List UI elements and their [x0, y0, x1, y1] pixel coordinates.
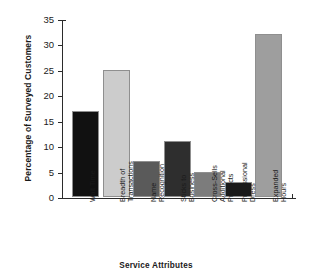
y-axis-tick: 0: [58, 198, 62, 199]
y-axis-tick: 20: [58, 96, 62, 97]
y-axis-tick: 30: [58, 45, 62, 46]
x-axis-tick-label: Professional Dress: [241, 162, 257, 202]
y-axis-tick-label: 5: [32, 167, 54, 178]
y-axis-tick-label: 0: [32, 192, 54, 203]
y-axis-tick: 35: [58, 20, 62, 21]
y-axis-tick: 25: [58, 71, 62, 72]
plot-area: 05101520253035 Wait TimeBreadth of Trans…: [62, 20, 295, 198]
y-axis-tick: 5: [58, 173, 62, 174]
x-axis-tick-label: Sticks to Business: [180, 173, 196, 202]
y-axis-tick-label: 10: [32, 141, 54, 152]
x-axis-title: Service Attributes: [0, 261, 312, 270]
y-axis-line: [62, 20, 63, 199]
x-axis-tick-label: Name Recognition: [150, 164, 166, 202]
y-axis-tick-label: 30: [32, 39, 54, 50]
x-axis-tick-label: Wait Time: [89, 170, 97, 202]
y-axis-tick-label: 35: [32, 14, 54, 25]
y-axis-top-cap: [62, 20, 66, 21]
y-axis-tick-label: 15: [32, 116, 54, 127]
x-axis-tick-label: Expanded Hours: [272, 170, 288, 202]
y-axis-tick: 10: [58, 147, 62, 148]
x-axis-tick-label: Breadth of Transactions: [119, 161, 135, 202]
y-axis-tick-label: 20: [32, 90, 54, 101]
x-axis-tick-label: Cross-Sells Additional Products: [211, 165, 236, 202]
x-axis-right-cap: [292, 194, 293, 199]
y-axis-tick-label: 25: [32, 65, 54, 76]
bar-chart: Percentage of Surveyed Customers 0510152…: [0, 0, 312, 277]
y-axis-tick: 15: [58, 122, 62, 123]
